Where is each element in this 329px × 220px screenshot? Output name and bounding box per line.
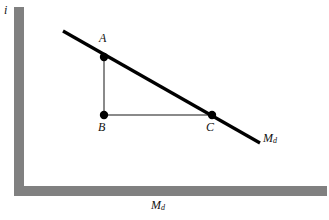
money-demand-figure: i Md A B C Md [0, 0, 329, 220]
x-axis-label: Md [151, 199, 165, 212]
curve-label-main: M [263, 131, 273, 145]
point-label-c: C [206, 121, 214, 133]
x-axis-bar [14, 186, 327, 196]
curve-label-sub: d [273, 136, 277, 145]
figure-canvas [0, 0, 329, 220]
x-axis-label-main: M [151, 198, 161, 212]
point-label-a: A [99, 32, 106, 44]
y-axis-bar [14, 7, 24, 191]
point-c [208, 111, 216, 119]
money-demand-curve-label: Md [263, 132, 277, 145]
y-axis-label: i [4, 4, 7, 16]
point-a [100, 53, 108, 61]
money-demand-curve [63, 31, 260, 143]
point-label-b: B [98, 121, 105, 133]
point-b [100, 111, 108, 119]
x-axis-label-sub: d [161, 203, 165, 212]
